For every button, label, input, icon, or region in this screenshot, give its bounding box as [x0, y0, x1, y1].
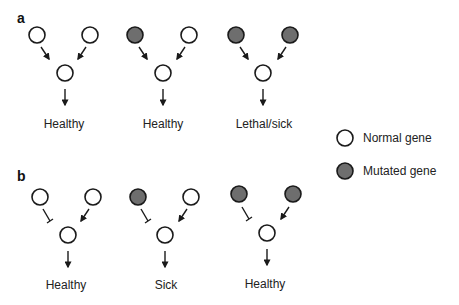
normal-gene-circle-icon: [57, 65, 73, 81]
outcome-label: Healthy: [46, 278, 87, 292]
outcome-label: Healthy: [143, 117, 184, 131]
mutated-gene-circle-icon: [282, 27, 298, 43]
activation-arrow-icon: [81, 209, 89, 221]
activation-arrow-icon: [179, 209, 187, 221]
panel-a-diagram: [29, 27, 298, 105]
activation-arrow-icon: [281, 207, 289, 219]
outcome-label: Lethal/sick: [236, 117, 293, 131]
mutated-gene-circle-icon: [127, 27, 143, 43]
normal-gene-circle-icon: [157, 227, 173, 243]
normal-gene-circle-icon: [155, 65, 171, 81]
normal-gene-circle-icon: [85, 189, 101, 205]
legend-label-normal: Normal gene: [363, 131, 432, 145]
panel-a-group-3: [228, 27, 298, 105]
normal-gene-circle-icon: [337, 130, 353, 146]
panel-label-b: b: [17, 168, 26, 184]
panel-b-diagram: [32, 186, 301, 267]
mutated-gene-circle-icon: [231, 186, 247, 202]
inhibition-bar-icon: [43, 209, 53, 223]
panel-b-group-1: [32, 189, 101, 267]
activation-arrow-icon: [41, 47, 49, 59]
normal-gene-circle-icon: [29, 27, 45, 43]
activation-arrow-icon: [177, 47, 185, 59]
normal-gene-circle-icon: [183, 189, 199, 205]
mutated-gene-circle-icon: [228, 27, 244, 43]
outcome-label: Sick: [155, 278, 178, 292]
inhibition-bar-icon: [242, 207, 252, 221]
mutated-gene-circle-icon: [337, 163, 353, 179]
outcome-label: Healthy: [245, 277, 286, 291]
activation-arrow-icon: [278, 47, 286, 59]
mutated-gene-circle-icon: [285, 186, 301, 202]
panel-label-a: a: [17, 10, 25, 26]
normal-gene-circle-icon: [60, 227, 76, 243]
normal-gene-circle-icon: [259, 225, 275, 241]
panel-a-group-2: [127, 27, 197, 105]
panel-a-group-1: [29, 27, 98, 105]
panel-b-group-2: [130, 189, 199, 267]
activation-arrow-icon: [240, 47, 248, 59]
normal-gene-circle-icon: [255, 65, 271, 81]
legend-label-mutated: Mutated gene: [363, 164, 436, 178]
panel-b-group-3: [231, 186, 301, 265]
inhibition-bar-icon: [141, 209, 151, 223]
normal-gene-circle-icon: [82, 27, 98, 43]
activation-arrow-icon: [78, 47, 86, 59]
diagram-canvas: [0, 0, 459, 305]
normal-gene-circle-icon: [181, 27, 197, 43]
outcome-label: Healthy: [44, 117, 85, 131]
normal-gene-circle-icon: [32, 189, 48, 205]
mutated-gene-circle-icon: [130, 189, 146, 205]
activation-arrow-icon: [139, 47, 147, 59]
